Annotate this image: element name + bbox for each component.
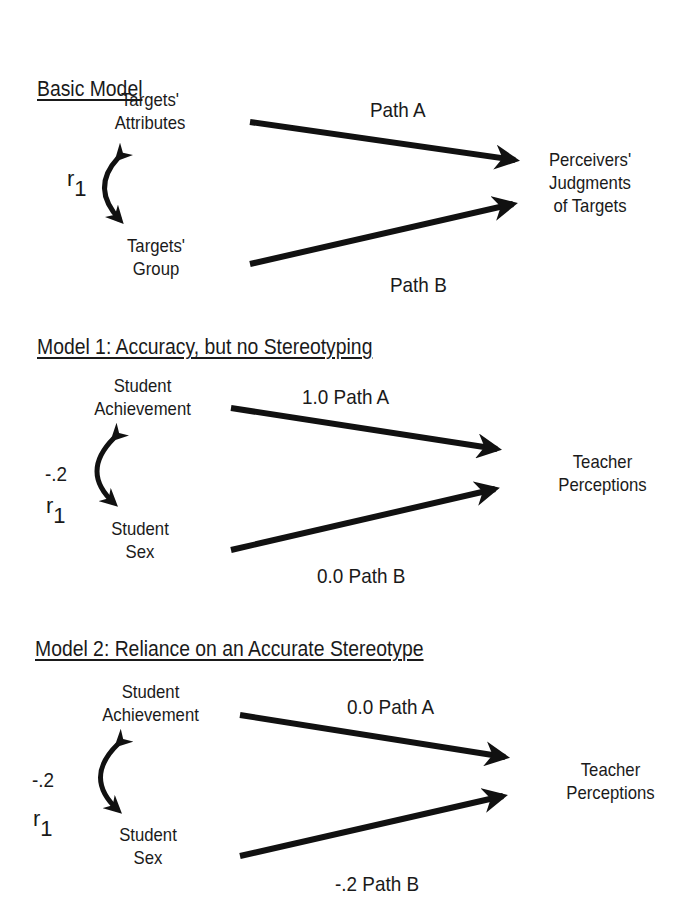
r-subscript: 1 [53,503,65,528]
node-line: Group [112,257,200,280]
node-line: Sex [105,540,175,563]
targets-group-node: Targets' Group [112,234,200,280]
correlation-value: -.2 [45,462,67,486]
node-line: Achievement [88,397,198,420]
path-a-arrow [231,408,497,449]
path-b-label: 0.0 Path B [317,564,405,588]
teacher-perceptions-node: Teacher Perceptions [548,450,658,496]
path-a-label: 0.0 Path A [347,695,434,719]
path-b-arrow [250,204,513,264]
node-line: Targets' [102,88,199,111]
node-line: Student [88,374,198,397]
r-subscript: 1 [40,816,52,841]
model1-title: Model 1: Accuracy, but no Stereotyping [37,334,372,360]
correlation-arrow [97,438,114,503]
student-sex-node: Student Sex [113,823,183,869]
perceivers-judgments-node: Perceivers' Judgments of Targets [537,148,643,217]
path-b-arrow [231,489,495,550]
node-line: Targets' [112,234,200,257]
path-b-arrow [240,796,503,856]
path-a-label: 1.0 Path A [302,385,389,409]
node-line: Teacher [556,758,666,781]
model2-title: Model 2: Reliance on an Accurate Stereot… [35,636,424,662]
student-sex-node: Student Sex [105,517,175,563]
node-line: Perceptions [548,473,658,496]
node-line: Sex [113,846,183,869]
path-a-arrow [250,122,515,160]
correlation-label: r1 [67,168,87,200]
node-line: Achievement [96,703,206,726]
r-subscript: 1 [74,176,86,201]
node-line: Student [105,517,175,540]
node-line: Student [96,680,206,703]
node-line: Perceptions [556,781,666,804]
student-achievement-node: Student Achievement [88,374,198,420]
student-achievement-node: Student Achievement [96,680,206,726]
correlation-arrow [101,744,119,810]
targets-attributes-node: Targets' Attributes [102,88,199,134]
correlation-label: r1 [46,495,66,527]
path-a-arrow [240,715,505,757]
node-line: Attributes [102,111,199,134]
path-b-label: -.2 Path B [335,872,419,896]
correlation-label: r1 [33,808,53,840]
path-a-label: Path A [370,98,426,122]
node-line: Perceivers' [537,148,643,171]
correlation-value: -.2 [32,768,54,792]
teacher-perceptions-node: Teacher Perceptions [556,758,666,804]
node-line: of Targets [537,194,643,217]
node-line: Judgments [537,171,643,194]
path-b-label: Path B [390,273,447,297]
node-line: Student [113,823,183,846]
node-line: Teacher [548,450,658,473]
correlation-arrow [104,158,120,220]
